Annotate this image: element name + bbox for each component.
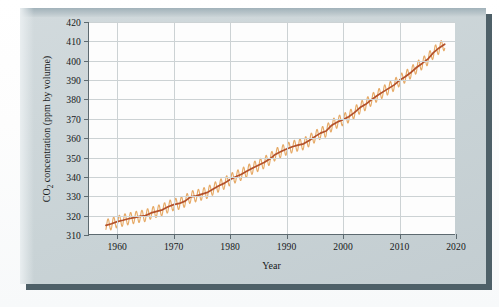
- x-axis-tick: [230, 234, 231, 239]
- chart-series-layer: [89, 22, 456, 235]
- y-axis-tick-label: 380: [66, 94, 81, 105]
- y-axis-tick-label: 320: [66, 210, 81, 221]
- plot-area: 3103203303403503603703803904004104201960…: [88, 22, 455, 235]
- scanned-page-background: CO2 concentration (ppm by volume) 310320…: [0, 0, 499, 307]
- x-axis-tick-label: 2020: [446, 241, 466, 252]
- x-axis-tick: [343, 234, 344, 239]
- seasonal-oscillation-series: [106, 41, 445, 230]
- chart-container: CO2 concentration (ppm by volume) 310320…: [20, 8, 486, 284]
- y-axis-tick: [84, 61, 89, 62]
- y-axis-tick: [84, 99, 89, 100]
- x-axis-tick-label: 1980: [220, 241, 240, 252]
- x-axis-title: Year: [88, 260, 455, 271]
- x-axis-tick: [287, 234, 288, 239]
- y-axis-tick-label: 330: [66, 191, 81, 202]
- y-axis-title-text: CO2 concentration (ppm by volume): [41, 55, 55, 201]
- x-axis-tick-label: 2010: [390, 241, 410, 252]
- gridline-vertical: [343, 22, 344, 234]
- y-axis-tick: [84, 119, 89, 120]
- y-axis-tick: [84, 196, 89, 197]
- y-axis-tick-label: 340: [66, 171, 81, 182]
- y-axis-tick: [84, 158, 89, 159]
- gridline-vertical: [400, 22, 401, 234]
- y-axis-tick-label: 360: [66, 133, 81, 144]
- figure-panel: CO2 concentration (ppm by volume) 310320…: [20, 8, 486, 284]
- y-axis-tick: [84, 138, 89, 139]
- x-axis-tick-label: 1990: [277, 241, 297, 252]
- gridline-vertical: [117, 22, 118, 234]
- y-axis-tick: [84, 216, 89, 217]
- y-axis-tick-label: 410: [66, 36, 81, 47]
- x-axis-tick: [400, 234, 401, 239]
- y-axis-tick-label: 390: [66, 75, 81, 86]
- y-axis-tick-label: 310: [66, 230, 81, 241]
- gridline-vertical: [174, 22, 175, 234]
- y-axis-tick: [84, 41, 89, 42]
- y-axis-tick: [84, 177, 89, 178]
- x-axis-tick: [117, 234, 118, 239]
- x-axis-tick: [174, 234, 175, 239]
- x-axis-tick-label: 1960: [107, 241, 127, 252]
- smoothed-trend-series: [106, 44, 445, 225]
- x-axis-tick-label: 2000: [333, 241, 353, 252]
- y-axis-tick: [84, 22, 89, 23]
- y-axis-tick-label: 400: [66, 55, 81, 66]
- x-axis-tick: [456, 234, 457, 239]
- x-axis-tick-label: 1970: [164, 241, 184, 252]
- y-axis-tick-label: 370: [66, 113, 81, 124]
- y-axis-tick: [84, 80, 89, 81]
- y-axis-title: CO2 concentration (ppm by volume): [40, 22, 56, 235]
- y-axis-tick-label: 350: [66, 152, 81, 163]
- y-axis-tick: [84, 235, 89, 236]
- gridline-vertical: [287, 22, 288, 234]
- gridline-vertical: [230, 22, 231, 234]
- y-axis-tick-label: 420: [66, 17, 81, 28]
